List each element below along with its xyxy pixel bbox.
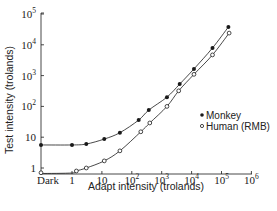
y-tick-label: 105 xyxy=(21,6,36,20)
monkey-data-point xyxy=(70,143,74,147)
monkey-data-point xyxy=(39,143,43,147)
fit-curves xyxy=(41,27,229,174)
x-tick-label: 1 xyxy=(69,174,75,186)
monkey-data-point xyxy=(178,82,182,86)
monkey-data-point xyxy=(118,131,122,135)
y-tick-label: 104 xyxy=(21,37,36,51)
human-data-point xyxy=(74,169,78,173)
monkey-data-point xyxy=(147,108,151,112)
legend-marker-human xyxy=(200,124,203,127)
y-axis-title: Test intensity (trolands) xyxy=(3,46,15,154)
human-fit-curve xyxy=(41,33,229,173)
legend-marker-monkey xyxy=(200,113,204,117)
y-tick-label: 102 xyxy=(21,98,36,112)
human-data-point xyxy=(227,31,231,35)
x-tick-label: Dark xyxy=(37,174,59,186)
human-data-point xyxy=(84,166,88,170)
monkey-data-point xyxy=(226,25,230,29)
monkey-data-point xyxy=(102,137,106,141)
human-data-point xyxy=(139,130,143,134)
legend-label-human: Human (RMB) xyxy=(206,121,270,132)
human-data-point xyxy=(211,53,215,57)
human-data-point xyxy=(165,105,169,109)
x-tick-label: 105 xyxy=(214,172,229,186)
x-axis-title: Adapt intensity (trolands) xyxy=(88,180,204,192)
human-data-point xyxy=(118,149,122,153)
human-data-point xyxy=(148,121,152,125)
y-tick-label: 1 xyxy=(31,162,37,174)
axes: 110102103104105Dark110102103104105106 xyxy=(21,6,259,186)
monkey-data-point xyxy=(84,142,88,146)
monkey-data-point xyxy=(137,118,141,122)
human-data-point xyxy=(192,72,196,76)
data-points xyxy=(39,25,231,175)
y-tick-label: 103 xyxy=(21,68,36,82)
human-data-point xyxy=(102,159,106,163)
monkey-data-point xyxy=(210,46,214,50)
human-data-point xyxy=(39,171,43,175)
threshold-vs-intensity-chart: 110102103104105Dark110102103104105106 Ad… xyxy=(0,0,277,211)
y-tick-label: 10 xyxy=(25,131,37,143)
monkey-fit-curve xyxy=(41,27,228,145)
x-tick-label: 106 xyxy=(244,172,259,186)
monkey-data-point xyxy=(165,95,169,99)
legend-label-monkey: Monkey xyxy=(206,110,241,121)
legend: Monkey Human (RMB) xyxy=(200,110,270,132)
monkey-data-point xyxy=(192,67,196,71)
human-data-point xyxy=(177,89,181,93)
